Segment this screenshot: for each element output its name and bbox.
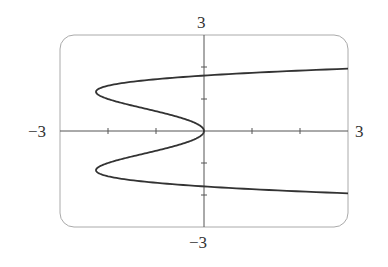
x-max-label: 3: [355, 123, 364, 140]
y-min-label: −3: [189, 234, 207, 251]
x-min-label: −3: [28, 123, 46, 140]
chart-canvas: [0, 0, 388, 267]
y-max-label: 3: [197, 14, 206, 31]
